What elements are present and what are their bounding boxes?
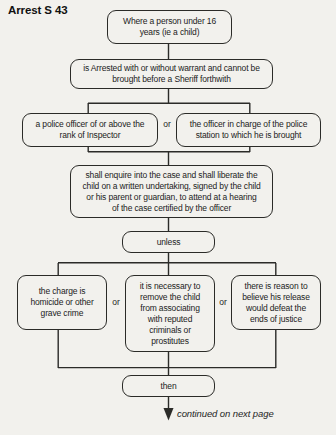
flow-node-label: Where a person under 16 years (ie a chil… [123,16,216,38]
flow-node-enquire-liberate: shall enquire into the case and shall li… [70,165,273,218]
flow-node-defeat-ends-of-justice: there is reason to believe his release w… [231,275,321,330]
flow-node-police-officer-inspector: a police officer of or above the rank of… [22,113,158,147]
or-connector-label: or [107,297,125,308]
flow-node-label: the charge is homicide or other grave cr… [30,286,93,319]
flow-node-label: unless [157,237,181,248]
flow-node-officer-in-charge: the officer in charge of the police stat… [176,113,321,147]
down-arrow-icon [164,408,174,421]
or-connector-label: or [158,119,176,130]
connector-lines [58,44,276,409]
flow-node-label: then [161,381,177,392]
flow-node-label: the officer in charge of the police stat… [190,119,307,141]
flow-node-arrested-without-warrant: is Arrested with or without warrant and … [70,59,273,89]
flow-node-label: there is reason to believe his release w… [242,281,310,325]
scanned-flowchart-page: ArrestS 43 Where a person under 16 years… [0,0,336,435]
flow-node-label: a police officer of or above the rank of… [36,119,145,141]
flow-node-then: then [122,375,215,397]
connector-lines-group [58,44,276,409]
flow-node-remove-child: it is necessary to remove the child from… [125,275,215,352]
flow-node-person-under-16: Where a person under 16 years (ie a chil… [107,10,232,44]
or-connector-label: or [215,297,231,308]
flow-node-unless: unless [122,231,215,253]
flow-node-grave-crime: the charge is homicide or other grave cr… [17,275,107,330]
flow-node-label: shall enquire into the case and shall li… [82,170,260,214]
flow-node-label: is Arrested with or without warrant and … [83,63,259,85]
flow-node-label: it is necessary to remove the child from… [140,281,201,347]
continued-note: continued on next page [177,408,274,419]
